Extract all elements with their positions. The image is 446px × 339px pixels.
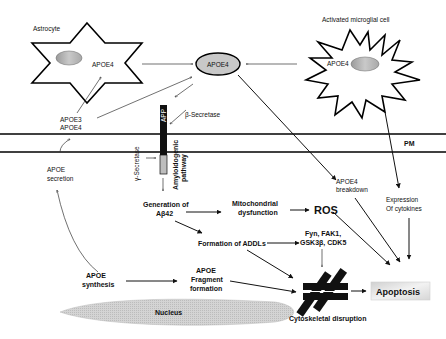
arrow-apoe4-to-app xyxy=(175,84,193,97)
cytokines-line2: Of cytokines xyxy=(386,205,423,213)
apoe-secretion-line1: APOE xyxy=(47,166,66,173)
arrow-synthesis-to-secretion xyxy=(57,190,98,272)
apoe3-label: APOE3 xyxy=(60,116,82,123)
central-apoe4-node: APOE4 xyxy=(196,53,240,75)
arrow-microglia-to-cytokines xyxy=(385,112,399,188)
kinases-line2: GSK3β, CDK5 xyxy=(300,239,346,247)
kinases-line1: Fyn, FAK1, xyxy=(305,230,341,238)
apoe-fragment-line2: Fragment xyxy=(191,276,224,284)
astrocyte-apoe4-label: APOE4 xyxy=(92,61,114,68)
arrow-ab42-to-addls xyxy=(175,221,202,233)
cytoskeleton-disruption-icon xyxy=(296,268,348,317)
ros-label: ROS xyxy=(314,204,338,216)
generation-ab42-line2: Aβ42 xyxy=(156,210,173,218)
plasma-membrane: PM xyxy=(0,134,446,152)
app-label: APP xyxy=(160,109,167,122)
microglia-nucleus-icon xyxy=(351,57,379,71)
generation-ab42-line1: Generation of xyxy=(143,201,189,208)
apoe-secretion-line2: secretion xyxy=(47,175,74,182)
apoe-fragment-line3: formation xyxy=(190,285,222,292)
arrow-fragment-to-cytoskeleton xyxy=(230,281,296,292)
microglia-label: Activated microglial cell xyxy=(322,16,390,24)
apoe-fragment-line1: APOE xyxy=(196,267,216,274)
apoe4-pathway-diagram: PM Astrocyte APOE4 Activated microglial … xyxy=(0,0,446,339)
arrow-secretion-up xyxy=(60,139,70,152)
astrocyte-cell: Astrocyte APOE4 xyxy=(32,23,142,103)
formation-addls-label: Formation of ADDLs xyxy=(198,240,266,247)
microglial-cell: Activated microglial cell APOE4 xyxy=(306,16,420,118)
apoptosis-node: Apoptosis xyxy=(371,282,430,300)
apoe-synthesis-line2: synthesis xyxy=(82,281,114,289)
apoe-synthesis-line1: APOE xyxy=(86,272,106,279)
amyloidogenic-line2: pathway xyxy=(180,154,188,182)
astrocyte-label: Astrocyte xyxy=(33,25,60,33)
microglia-apoe4-label: APOE4 xyxy=(327,60,349,67)
cytokines-line1: Expression xyxy=(386,196,419,204)
app-protein: APP xyxy=(160,105,167,174)
gamma-secretase-label: γ-Secretase xyxy=(133,146,141,181)
beta-secretase-label: β-Secretase xyxy=(185,111,221,119)
cytoskeletal-disruption-label: Cytoskeletal disruption xyxy=(289,315,366,323)
apoe4-label: APOE4 xyxy=(60,124,82,131)
apoe4-breakdown-line2: breakdown xyxy=(336,186,368,193)
membrane-label: PM xyxy=(404,140,415,147)
nucleus: Nucleus xyxy=(60,299,294,325)
apoe4-breakdown-line1: APOE4 xyxy=(336,178,358,185)
arrow-beta-secretase xyxy=(170,110,186,124)
arrow-addls-to-cytoskeleton xyxy=(247,250,293,278)
nucleus-label: Nucleus xyxy=(155,309,182,316)
mito-line2: dysfunction xyxy=(238,209,278,217)
arrow-apoe4-to-breakdown xyxy=(238,75,336,180)
central-apoe4-label: APOE4 xyxy=(207,61,229,68)
amyloidogenic-line1: Amyloidogenic xyxy=(172,140,180,190)
astrocyte-nucleus-icon xyxy=(56,51,82,65)
apoptosis-label: Apoptosis xyxy=(376,287,420,297)
mito-line1: Mitochondrial xyxy=(232,200,278,207)
